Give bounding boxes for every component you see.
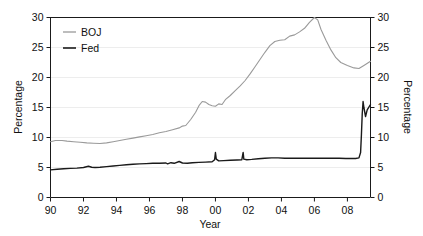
left-tick-label: 15 xyxy=(32,101,44,113)
right-tick-label: 30 xyxy=(378,11,390,23)
x-tick-label: 02 xyxy=(243,204,255,216)
x-tick-label: 08 xyxy=(342,204,354,216)
x-tick-label: 06 xyxy=(309,204,321,216)
x-tick-label: 92 xyxy=(78,204,90,216)
x-tick-label: 98 xyxy=(177,204,189,216)
left-tick-label: 10 xyxy=(32,131,44,143)
x-tick-label: 90 xyxy=(45,204,57,216)
right-tick-label: 15 xyxy=(378,101,390,113)
x-tick-label: 04 xyxy=(276,204,288,216)
left-tick-label: 30 xyxy=(32,11,44,23)
left-tick-label: 20 xyxy=(32,71,44,83)
right-tick-label: 25 xyxy=(378,41,390,53)
left-tick-label: 0 xyxy=(38,191,44,203)
right-tick-label: 20 xyxy=(378,71,390,83)
line-chart: 051015202530 051015202530 90929496980002… xyxy=(0,0,423,236)
right-axis-title: Percentage xyxy=(402,80,414,134)
right-tick-label: 10 xyxy=(378,131,390,143)
right-tick-label: 0 xyxy=(378,191,384,203)
x-tick-label: 96 xyxy=(144,204,156,216)
bottom-axis-title: Year xyxy=(199,218,221,230)
legend-label-fed: Fed xyxy=(81,42,99,54)
chart-figure: 051015202530 051015202530 90929496980002… xyxy=(0,0,423,236)
right-tick-label: 5 xyxy=(378,161,384,173)
left-tick-label: 5 xyxy=(38,161,44,173)
left-axis-title: Percentage xyxy=(12,80,24,134)
legend-label-boj: BOJ xyxy=(81,26,101,38)
left-tick-label: 25 xyxy=(32,41,44,53)
x-tick-label: 94 xyxy=(111,204,123,216)
x-tick-label: 00 xyxy=(210,204,222,216)
chart-background xyxy=(0,0,423,236)
